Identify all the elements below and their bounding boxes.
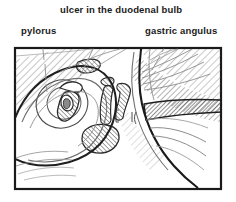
lesion-blob-lower xyxy=(82,125,119,154)
label-ulcer-duodenal-bulb: ulcer in the duodenal bulb xyxy=(60,4,182,15)
label-gastric-angulus: gastric angulus xyxy=(145,25,217,36)
label-pylorus: pylorus xyxy=(21,25,56,36)
pyloric-lumen-inner xyxy=(63,99,70,109)
